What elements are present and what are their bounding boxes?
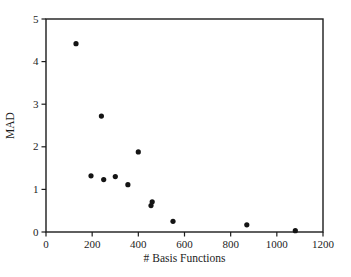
- y-tick-label: 2: [33, 140, 39, 152]
- data-point: [113, 174, 118, 179]
- scatter-plot-figure: 020040060080010001200 012345 # Basis Fun…: [0, 0, 351, 277]
- y-tick-label: 5: [33, 13, 39, 25]
- x-tick-label: 400: [130, 238, 147, 250]
- plot-frame: [46, 19, 323, 232]
- data-point: [125, 182, 130, 187]
- data-point: [99, 114, 104, 119]
- y-tick-label: 3: [33, 98, 39, 110]
- data-point: [170, 219, 175, 224]
- data-point: [293, 228, 298, 233]
- data-point: [136, 149, 141, 154]
- data-points: [73, 41, 298, 233]
- x-tick-label: 600: [176, 238, 193, 250]
- data-point: [88, 173, 93, 178]
- scatter-plot: 020040060080010001200 012345 # Basis Fun…: [0, 0, 351, 277]
- data-point: [244, 222, 249, 227]
- data-point: [150, 199, 155, 204]
- y-axis-ticks: 012345: [33, 13, 46, 238]
- y-tick-label: 1: [33, 183, 39, 195]
- x-axis-ticks: 020040060080010001200: [43, 232, 334, 250]
- x-tick-label: 0: [43, 238, 49, 250]
- x-tick-label: 800: [222, 238, 239, 250]
- y-axis-title: MAD: [4, 112, 16, 139]
- data-point: [101, 177, 106, 182]
- y-tick-label: 4: [33, 55, 39, 67]
- y-tick-label: 0: [33, 226, 39, 238]
- x-tick-label: 200: [84, 238, 101, 250]
- x-tick-label: 1000: [266, 238, 289, 250]
- data-point: [73, 41, 78, 46]
- x-tick-label: 1200: [312, 238, 335, 250]
- x-axis-title: # Basis Functions: [144, 252, 226, 264]
